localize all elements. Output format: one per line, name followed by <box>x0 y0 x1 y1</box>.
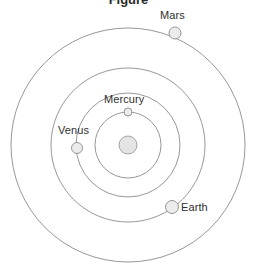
planet-label-venus: Venus <box>58 124 89 136</box>
planet-label-mars: Mars <box>160 9 185 21</box>
planet-body-earth <box>166 201 179 214</box>
planet-label-earth: Earth <box>181 201 208 213</box>
planet-bodies-group <box>72 27 182 214</box>
solar-system-diagram: Figure MercuryVenusEarthMars <box>0 0 257 280</box>
planet-label-mercury: Mercury <box>104 93 144 105</box>
planet-body-mercury <box>124 108 132 116</box>
planet-body-venus <box>72 143 83 154</box>
sun-body <box>119 136 137 154</box>
sun-group <box>119 136 137 154</box>
orbit-canvas <box>0 0 257 280</box>
planet-body-mars <box>169 27 181 39</box>
